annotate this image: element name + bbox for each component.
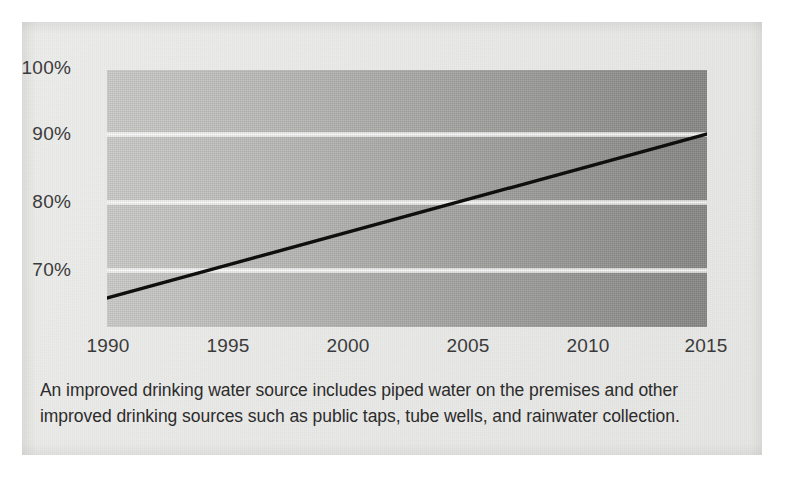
y-axis-tick-100-label: 100%	[22, 57, 71, 78]
y-axis-tick-100: 100%	[0, 57, 71, 79]
improved-water-source-trend-line	[107, 134, 707, 298]
figure-caption-line-1: An improved drinking water source includ…	[40, 377, 746, 403]
plot-area	[107, 70, 707, 327]
y-axis-tick-90-label: 90%	[32, 123, 71, 144]
x-axis-tick-1990-label: 1990	[86, 335, 129, 356]
y-axis-tick-80: 80%	[0, 191, 71, 213]
x-axis-tick-2005: 2005	[423, 335, 513, 357]
x-axis-tick-2000-label: 2000	[326, 335, 369, 356]
x-axis-tick-2015-label: 2015	[684, 335, 727, 356]
figure-caption-line-2: improved drinking sources such as public…	[40, 403, 746, 429]
x-axis-tick-2015: 2015	[661, 335, 751, 357]
y-axis-tick-90: 90%	[0, 123, 71, 145]
x-axis-tick-1995-label: 1995	[206, 335, 249, 356]
x-axis-tick-2010-label: 2010	[566, 335, 609, 356]
figure-card: 100% 90% 80% 70% 1990 1995 2000 2005 201…	[22, 22, 762, 455]
x-axis-tick-1990: 1990	[63, 335, 153, 357]
x-axis-tick-2005-label: 2005	[446, 335, 489, 356]
x-axis-tick-1995: 1995	[183, 335, 273, 357]
x-axis-tick-2000: 2000	[303, 335, 393, 357]
y-axis-tick-70: 70%	[0, 259, 71, 281]
figure-caption: An improved drinking water source includ…	[40, 377, 746, 429]
y-axis-tick-70-label: 70%	[32, 259, 71, 280]
y-axis-tick-80-label: 80%	[32, 191, 71, 212]
data-series-line	[107, 70, 707, 327]
x-axis-tick-2010: 2010	[543, 335, 633, 357]
